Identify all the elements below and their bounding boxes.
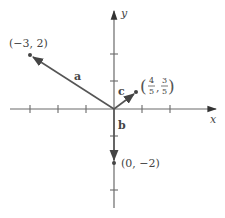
- x-axis-label: x: [210, 113, 217, 126]
- vector-b-label: b: [118, 119, 126, 132]
- svg-text:,: ,: [156, 81, 160, 94]
- svg-text:5: 5: [162, 87, 167, 96]
- vector-a-label: a: [74, 70, 81, 83]
- point-a: [28, 53, 32, 57]
- y-axis-label: y: [120, 7, 128, 20]
- point-c-label: ( 4 5 , 3 5 ): [140, 76, 175, 96]
- point-b-label: (0, −2): [121, 157, 160, 170]
- svg-text:4: 4: [149, 76, 154, 85]
- svg-text:3: 3: [162, 76, 167, 85]
- point-b: [112, 161, 116, 165]
- vector-c-label: c: [118, 85, 125, 98]
- point-c: [134, 90, 138, 94]
- point-a-label: (−3, 2): [9, 37, 48, 50]
- vector-a: [33, 57, 114, 109]
- svg-text:): ): [168, 76, 175, 96]
- svg-text:(: (: [140, 76, 147, 96]
- vector-diagram: x y (−3, 2) a (0, −2) b c ( 4 5 , 3 5 ): [0, 0, 225, 218]
- svg-text:5: 5: [149, 87, 154, 96]
